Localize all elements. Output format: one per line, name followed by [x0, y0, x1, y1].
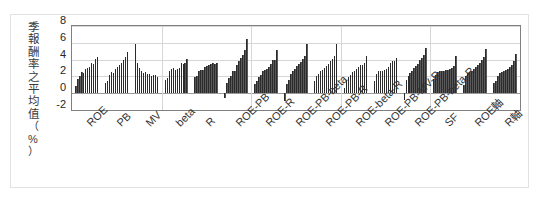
bar [515, 54, 517, 93]
gridline-horizontal [72, 60, 520, 61]
y-axis-tick-label: 6 [60, 32, 66, 43]
y-axis-title-char: 均 [25, 95, 41, 107]
y-axis-tick-label: 4 [60, 49, 66, 60]
chart-frame: 季報酬率之平均值（%） 86420-2 ROEPBMVbetaRROE-PBRO… [10, 14, 529, 188]
bar [485, 49, 487, 94]
y-axis-title-char: 平 [25, 83, 41, 95]
y-axis-title: 季報酬率之平均值（%） [25, 21, 41, 181]
gridline-horizontal [72, 26, 520, 27]
bar [157, 77, 159, 93]
y-axis-title-char: 率 [25, 58, 41, 70]
y-axis-title-char: % [25, 133, 41, 145]
bar [216, 63, 218, 93]
y-axis-title-char: 報 [25, 33, 41, 45]
y-axis-title-char: 酬 [25, 46, 41, 58]
bar [276, 50, 278, 93]
y-axis-tick-label: 2 [60, 65, 66, 76]
y-axis-tick-labels: 86420-2 [44, 19, 66, 111]
gridline-vertical [430, 26, 431, 110]
plot-area [71, 25, 521, 111]
bar [186, 59, 188, 93]
gridline-vertical [251, 26, 252, 110]
bar [306, 44, 308, 94]
y-axis-tick-label: -2 [56, 99, 66, 110]
x-axis-tick-label: R [204, 115, 217, 128]
bar [127, 52, 129, 93]
x-axis-tick-label: MV [144, 109, 163, 128]
x-axis-tick-label: SF [443, 111, 461, 129]
y-axis-title-char: 之 [25, 71, 41, 83]
gridline-horizontal [72, 43, 520, 44]
gridline-vertical [341, 26, 342, 110]
y-axis-tick-label: 0 [60, 82, 66, 93]
bar [224, 93, 226, 98]
x-axis-tick-label: R軸 [503, 108, 524, 129]
x-axis-tick-label: PB [115, 111, 133, 129]
bar [97, 57, 99, 93]
x-axis-tick-labels: ROEPBMVbetaRROE-PBROE-RROE-PB-betaROE-PB… [71, 111, 541, 201]
bar [246, 39, 248, 94]
y-axis-title-char: （ [25, 120, 41, 132]
y-axis-title-char: ） [25, 145, 41, 157]
y-axis-title-char: 值 [25, 108, 41, 120]
y-axis-tick-label: 8 [60, 15, 66, 26]
y-axis-title-char: 季 [25, 21, 41, 33]
gridline-vertical [162, 26, 163, 110]
